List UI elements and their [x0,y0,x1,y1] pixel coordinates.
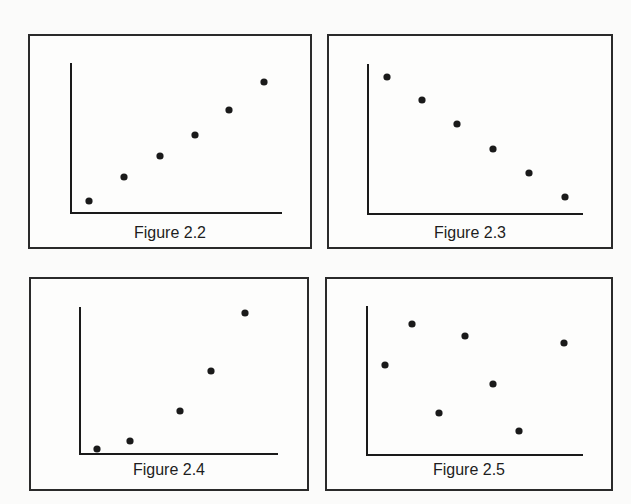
data-point [561,193,568,200]
data-point [225,106,232,113]
data-point [489,380,496,387]
figure-2-5-caption: Figure 2.5 [327,461,611,479]
data-point [525,169,532,176]
data-point [560,339,567,346]
data-point [207,367,214,374]
figure-2-3-caption: Figure 2.3 [329,224,611,242]
data-point [191,131,198,138]
data-point [156,152,163,159]
data-point [453,120,460,127]
figure-2-4-panel: Figure 2.4 [29,277,309,491]
data-point [93,445,100,452]
data-point [418,96,425,103]
figure-2-3-plot [329,36,615,251]
data-point [241,309,248,316]
figure-2-4-caption: Figure 2.4 [31,461,307,479]
data-point [461,332,468,339]
figure-2-5-panel: Figure 2.5 [325,277,613,491]
data-point [489,145,496,152]
figure-2-2-plot [30,36,314,251]
figure-2-3-panel: Figure 2.3 [327,34,613,249]
data-point [126,437,133,444]
data-point [383,73,390,80]
data-point [85,197,92,204]
data-point [408,320,415,327]
data-point [260,78,267,85]
figure-2-2-caption: Figure 2.2 [30,224,310,242]
data-point [120,173,127,180]
data-point [515,427,522,434]
data-point [435,409,442,416]
data-point [381,361,388,368]
data-point [176,407,183,414]
figure-2-2-panel: Figure 2.2 [28,34,312,249]
